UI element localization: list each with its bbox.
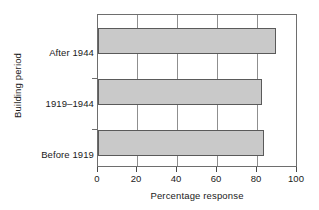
x-tick-label-0: 0 [94, 173, 99, 184]
y-axis-title: Building period [10, 0, 26, 170]
bar-after-1944 [98, 28, 276, 54]
y-axis-title-text: Building period [13, 52, 24, 117]
x-tick-mark-0 [97, 167, 98, 172]
x-tick-label-80: 80 [251, 173, 262, 184]
bar-1919-1944 [98, 79, 262, 105]
x-tick-label-60: 60 [211, 173, 222, 184]
y-tick-label-1919-1944: 1919–1944 [24, 98, 94, 109]
x-tick-mark-80 [256, 167, 257, 172]
y-tick-label-group: After 1944 1919–1944 Before 1919 [26, 14, 96, 167]
plot-area [97, 14, 297, 167]
x-tick-mark-40 [176, 167, 177, 172]
x-axis-title: Percentage response [97, 190, 297, 201]
bar-before-1919 [98, 130, 264, 156]
x-tick-mark-20 [136, 167, 137, 172]
x-tick-mark-100 [296, 167, 297, 172]
x-tick-label-40: 40 [171, 173, 182, 184]
bars-layer [98, 15, 296, 166]
x-tick-mark-group [97, 167, 297, 172]
x-tick-label-group: 0 20 40 60 80 100 [97, 173, 297, 186]
bar-chart: Building period After 1944 1919–1944 Bef… [0, 0, 319, 210]
y-tick-label-after-1944: After 1944 [24, 47, 94, 58]
y-tick-label-before-1919: Before 1919 [24, 149, 94, 160]
x-tick-mark-60 [216, 167, 217, 172]
x-tick-label-20: 20 [131, 173, 142, 184]
x-tick-label-100: 100 [288, 173, 304, 184]
